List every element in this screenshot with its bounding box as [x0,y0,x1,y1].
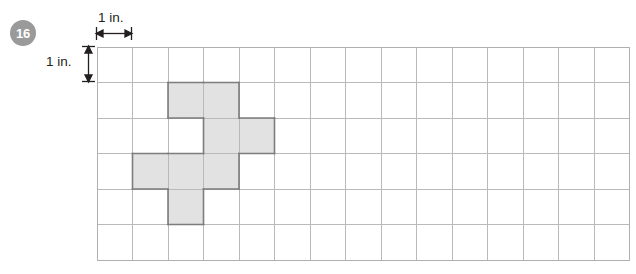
shaded-cell [133,154,169,190]
unit-square-grid [96,46,631,261]
shaded-cell [239,118,275,154]
horizontal-measure-label: 1 in. [98,10,124,25]
shaded-cell [168,189,204,225]
grid-svg [96,46,631,261]
problem-number-badge: 16 [10,20,36,46]
shaded-cell [168,83,204,119]
shaded-cell [204,83,240,119]
shaded-cell [204,154,240,190]
worksheet-figure: 16 1 in. 1 in. [0,0,636,274]
shaded-cell [204,118,240,154]
vertical-measure-label: 1 in. [46,54,72,69]
shaded-cell [168,154,204,190]
